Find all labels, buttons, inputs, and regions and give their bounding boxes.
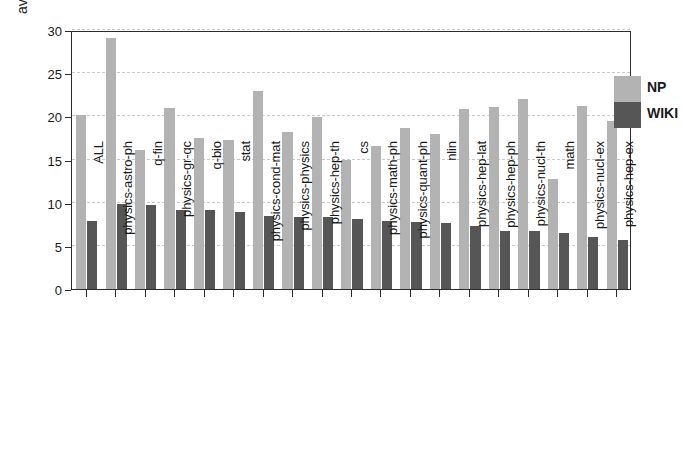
legend-item: NP xyxy=(614,76,682,102)
x-tick-mark xyxy=(498,290,499,297)
x-tick-label: physics-math-ph xyxy=(385,141,400,301)
legend: NPWIKI xyxy=(614,76,682,128)
legend-label: WIKI xyxy=(647,105,678,121)
bar-np xyxy=(577,106,587,289)
bar-np xyxy=(312,117,322,289)
x-tick-mark xyxy=(174,290,175,297)
x-tick-label: physics-nucl-th xyxy=(533,141,548,301)
x-tick-mark xyxy=(410,290,411,297)
bar-np xyxy=(371,146,381,289)
x-tick-mark xyxy=(233,290,234,297)
bar-np xyxy=(76,115,86,289)
x-tick-label: physics-hep-ex xyxy=(621,141,636,301)
x-tick-mark xyxy=(351,290,352,297)
bar-np xyxy=(253,91,263,289)
x-tick-label: stat xyxy=(238,141,253,301)
legend-swatch xyxy=(614,76,641,102)
bar-np xyxy=(548,179,558,290)
x-tick-mark xyxy=(115,290,116,297)
bar-np xyxy=(430,134,440,289)
legend-item: WIKI xyxy=(614,102,682,128)
bar-np xyxy=(607,121,617,289)
x-tick-mark xyxy=(557,290,558,297)
x-tick-mark xyxy=(263,290,264,297)
x-tick-label: physics-hep-lat xyxy=(474,141,489,301)
x-tick-mark xyxy=(204,290,205,297)
bar-np xyxy=(282,132,292,289)
x-tick-label: physics-cond-mat xyxy=(268,141,283,301)
x-tick-label: physics-astro-ph xyxy=(120,141,135,301)
bar-np xyxy=(135,150,145,289)
bar-np xyxy=(106,38,116,289)
x-tick-label: physics-hep-th xyxy=(327,141,342,301)
y-tick-label: 15 xyxy=(0,154,71,168)
bar-np xyxy=(341,160,351,290)
y-tick-label: 20 xyxy=(0,110,71,124)
x-tick-label: cs xyxy=(356,141,371,301)
y-tick-label: 10 xyxy=(0,197,71,211)
bar-np xyxy=(194,138,204,289)
legend-label: NP xyxy=(647,79,666,95)
x-tick-mark xyxy=(469,290,470,297)
x-tick-label: ALL xyxy=(91,141,106,301)
x-tick-mark xyxy=(616,290,617,297)
y-tick-label: 25 xyxy=(0,67,71,81)
legend-swatch xyxy=(614,102,641,128)
y-tick-label: 5 xyxy=(0,240,71,254)
x-tick-mark xyxy=(86,290,87,297)
x-tick-mark xyxy=(292,290,293,297)
bar-np xyxy=(489,107,499,289)
x-tick-label: q-fin xyxy=(150,141,165,301)
x-tick-label: physics-quant-ph xyxy=(415,141,430,301)
y-tick-label: 30 xyxy=(0,24,71,38)
bar-np xyxy=(459,109,469,289)
x-tick-mark xyxy=(587,290,588,297)
x-tick-mark xyxy=(145,290,146,297)
bar-np xyxy=(400,128,410,289)
x-tick-mark xyxy=(439,290,440,297)
y-tick-label: 0 xyxy=(0,283,71,297)
bar-np xyxy=(223,140,233,289)
bar-np xyxy=(164,108,174,289)
x-tick-label: math xyxy=(562,141,577,301)
gridline xyxy=(72,29,630,30)
x-tick-mark xyxy=(380,290,381,297)
y-tick-mark xyxy=(65,290,71,291)
x-tick-label: q-bio xyxy=(209,141,224,301)
x-tick-mark xyxy=(528,290,529,297)
x-tick-mark xyxy=(322,290,323,297)
x-tick-label: physics-physics xyxy=(297,141,312,301)
x-tick-label: nlin xyxy=(444,141,459,301)
x-tick-label: physics-nucl-ex xyxy=(592,141,607,301)
x-tick-label: physics-hep-ph xyxy=(503,141,518,301)
bar-np xyxy=(518,99,528,289)
x-tick-label: physics-gr-qc xyxy=(179,141,194,301)
